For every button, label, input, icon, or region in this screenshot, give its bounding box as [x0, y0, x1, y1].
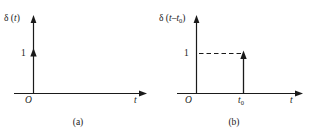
x-axis-arrowhead-a [139, 91, 147, 97]
panel-a: δ (t) 1 O t (a) [0, 0, 156, 140]
x-axis-label-a: t [134, 96, 137, 106]
delta-function-figure: δ (t) 1 O t (a) δ (t–t0) 1 [0, 0, 312, 140]
origin-label-a: O [25, 96, 32, 106]
panel-a-axes [0, 0, 156, 120]
y-axis-arrowhead-a [31, 15, 37, 23]
x-tick-label-t0-b: t0 [238, 96, 244, 106]
y-tick-label-one-a: 1 [21, 49, 26, 59]
y-tick-label-one-b: 1 [184, 49, 189, 59]
y-axis-arrowhead-b [194, 15, 200, 23]
y-axis-label-b: δ (t–t0) [159, 14, 185, 24]
origin-label-b: O [185, 96, 192, 106]
x-axis-arrowhead-b [295, 91, 303, 97]
caption-b: (b) [156, 117, 312, 127]
caption-a: (a) [0, 117, 156, 127]
panel-b: δ (t–t0) 1 O t0 t (b) [156, 0, 312, 140]
impulse-arrowhead-b [240, 51, 246, 60]
y-axis-label-a: δ (t) [4, 14, 20, 24]
impulse-arrowhead-a [30, 48, 36, 57]
x-axis-label-b: t [290, 96, 293, 106]
